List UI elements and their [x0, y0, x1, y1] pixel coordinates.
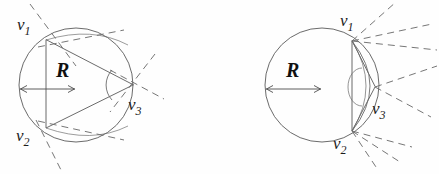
right-dashed-v3-a: [375, 66, 437, 87]
right-v2-base: v: [333, 134, 341, 153]
right-dashed-v1-b: [352, 24, 432, 41]
left-circumcircle: [19, 28, 133, 142]
right-v1-sub: 1: [348, 20, 354, 34]
left-vertex-label-v3: v3: [128, 96, 142, 113]
diagram-canvas: [0, 0, 439, 174]
right-angle-arc-v3: [348, 68, 362, 106]
left-inscribed-triangle: [46, 40, 133, 128]
right-v2-sub: 2: [341, 143, 347, 157]
right-v3-base: v: [372, 99, 380, 118]
left-dashed-line-f: [110, 70, 164, 99]
figure-root: v1 v2 v3 R v1 v2 v3 R: [0, 0, 439, 174]
right-construction-arc-outer: [352, 41, 370, 131]
left-v2-base: v: [16, 126, 24, 145]
right-construction-arc-inner: [352, 41, 366, 131]
left-v3-sub: 3: [136, 104, 142, 118]
left-dashed-line-d: [36, 120, 62, 172]
left-v2-sub: 2: [24, 135, 30, 149]
left-radius-label: R: [56, 60, 69, 80]
left-vertex-label-v1: v1: [17, 16, 31, 33]
right-radius-arrow: [266, 86, 321, 93]
right-v3-sub: 3: [380, 108, 386, 122]
left-construction-arc-bottom: [46, 126, 128, 136]
left-diagram-group: [19, 4, 164, 172]
right-dashed-v2-b: [352, 131, 400, 162]
right-dashed-v2-c: [352, 131, 378, 170]
right-radius-label: R: [286, 60, 299, 80]
left-v3-base: v: [128, 95, 136, 114]
right-vertex-label-v2: v2: [333, 135, 347, 152]
right-dashed-v1-a: [352, 2, 396, 41]
left-construction-arc-top: [46, 34, 128, 45]
left-radius-arrow: [20, 86, 75, 93]
right-vertex-label-v3: v3: [372, 100, 386, 117]
right-dashed-v1-c: [352, 41, 437, 50]
right-v1-base: v: [340, 11, 348, 30]
left-v1-sub: 1: [25, 24, 31, 38]
left-vertex-label-v2: v2: [16, 127, 30, 144]
right-vertex-label-v1: v1: [340, 12, 354, 29]
right-circumcircle: [265, 28, 379, 142]
left-v1-base: v: [17, 15, 25, 34]
